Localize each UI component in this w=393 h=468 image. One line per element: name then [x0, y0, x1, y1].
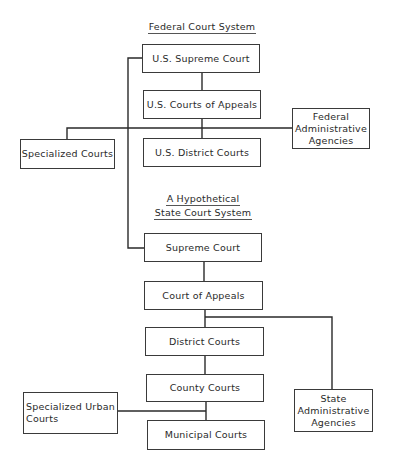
state-court-of-appeals-box: Court of Appeals: [144, 281, 263, 310]
federal-administrative-agencies-label: Federal Administrative Agencies: [295, 111, 367, 147]
municipal-courts-label: Municipal Courts: [165, 429, 248, 441]
federal-title: Federal Court System: [142, 21, 262, 33]
state-supreme-court-label: Supreme Court: [166, 242, 240, 254]
federal-title-text: Federal Court System: [148, 21, 257, 34]
municipal-courts-box: Municipal Courts: [147, 420, 265, 450]
county-courts-box: County Courts: [146, 374, 264, 402]
us-district-courts-label: U.S. District Courts: [155, 147, 249, 159]
specialized-courts-box: Specialized Courts: [20, 139, 115, 169]
state-title-line1: A Hypothetical: [142, 193, 264, 205]
county-courts-label: County Courts: [170, 382, 241, 394]
us-courts-of-appeals-label: U.S. Courts of Appeals: [147, 99, 258, 111]
us-courts-of-appeals-box: U.S. Courts of Appeals: [143, 90, 261, 119]
state-title-line2-text: State Court System: [154, 207, 252, 220]
state-district-courts-label: District Courts: [169, 336, 240, 348]
us-supreme-court-box: U.S. Supreme Court: [142, 44, 260, 73]
state-court-of-appeals-label: Court of Appeals: [162, 290, 244, 302]
state-title-line2: State Court System: [142, 207, 264, 219]
state-administrative-agencies-box: State Administrative Agencies: [294, 389, 373, 432]
us-supreme-court-label: U.S. Supreme Court: [152, 53, 249, 65]
us-district-courts-box: U.S. District Courts: [143, 138, 261, 167]
state-supreme-court-box: Supreme Court: [144, 233, 262, 262]
state-title-line1-text: A Hypothetical: [166, 193, 241, 206]
specialized-urban-courts-box: Specialized Urban Courts: [23, 392, 118, 434]
state-administrative-agencies-label: State Administrative Agencies: [298, 393, 370, 429]
state-district-courts-box: District Courts: [145, 327, 264, 356]
court-system-diagram: Federal Court System U.S. Supreme Court …: [0, 0, 393, 468]
specialized-urban-courts-label: Specialized Urban Courts: [26, 401, 115, 425]
specialized-courts-label: Specialized Courts: [22, 148, 113, 160]
federal-administrative-agencies-box: Federal Administrative Agencies: [292, 108, 370, 149]
